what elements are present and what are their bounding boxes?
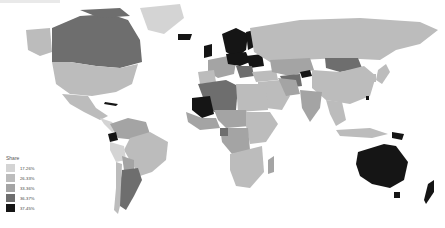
legend-label: 36-37% <box>20 196 34 201</box>
region-australia[interactable] <box>356 144 408 188</box>
region-japan[interactable] <box>376 64 390 84</box>
legend-swatch <box>6 184 15 192</box>
legend-item: 17-26% <box>6 163 66 173</box>
legend-item: 33-36% <box>6 183 66 193</box>
legend-label: 33-36% <box>20 186 34 191</box>
region-madagascar[interactable] <box>268 156 274 174</box>
region-usa[interactable] <box>52 62 138 96</box>
legend-label: 37-45% <box>20 206 34 211</box>
legend-swatch <box>6 164 15 172</box>
region-canada[interactable] <box>52 14 142 68</box>
region-greenland[interactable] <box>140 4 184 34</box>
region-southeast-asia[interactable] <box>326 100 346 126</box>
region-libya-egypt[interactable] <box>236 84 268 112</box>
region-balkans[interactable] <box>236 66 254 78</box>
region-tasmania[interactable] <box>394 192 400 198</box>
legend-title: Share <box>6 155 66 161</box>
region-new-zealand[interactable] <box>424 180 434 204</box>
region-sahel[interactable] <box>214 110 250 128</box>
region-east-africa[interactable] <box>246 112 278 144</box>
region-cuba[interactable] <box>104 102 118 106</box>
legend: Share 17-26% 26-33% 33-36% 36-37% 37-45% <box>6 155 66 213</box>
region-iceland[interactable] <box>178 34 192 40</box>
region-korea[interactable] <box>370 74 376 82</box>
region-png[interactable] <box>392 132 404 140</box>
legend-swatch <box>6 174 15 182</box>
region-central-europe[interactable] <box>226 52 250 66</box>
region-cameroon[interactable] <box>220 128 228 136</box>
region-alaska[interactable] <box>26 28 52 56</box>
region-mali[interactable] <box>192 96 214 118</box>
legend-item: 26-33% <box>6 173 66 183</box>
region-indonesia[interactable] <box>336 128 388 138</box>
region-india[interactable] <box>300 90 322 122</box>
region-russia[interactable] <box>250 18 438 62</box>
region-taiwan[interactable] <box>366 96 369 100</box>
legend-swatch <box>6 194 15 202</box>
legend-label: 26-33% <box>20 176 34 181</box>
world-map <box>0 0 445 228</box>
region-uk[interactable] <box>204 44 212 58</box>
region-mexico[interactable] <box>62 94 108 120</box>
region-argentina[interactable] <box>120 168 142 210</box>
legend-label: 17-26% <box>20 166 34 171</box>
legend-item: 37-45% <box>6 203 66 213</box>
legend-swatch <box>6 204 15 212</box>
legend-item: 36-37% <box>6 193 66 203</box>
